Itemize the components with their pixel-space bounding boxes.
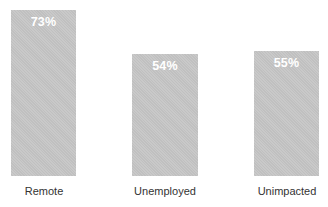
bar-value-label: 55% — [254, 56, 319, 70]
bar-unimpacted: 55% — [254, 51, 319, 176]
bar-value-label: 54% — [132, 59, 198, 73]
bar-chart: 73% 54% 55% Remote Unemployed Unimpacted — [0, 0, 328, 207]
bar-value-label: 73% — [11, 15, 76, 29]
bar-remote: 73% — [11, 10, 76, 176]
category-label-unemployed: Unemployed — [110, 185, 220, 197]
bar-unemployed: 54% — [132, 54, 198, 176]
category-label-remote: Remote — [0, 185, 99, 197]
category-label-unimpacted: Unimpacted — [232, 185, 328, 197]
